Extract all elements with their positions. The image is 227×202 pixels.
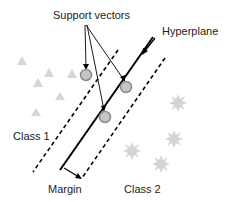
triangle-icon xyxy=(31,108,41,116)
starburst-icon xyxy=(165,130,183,148)
margin-label: Margin xyxy=(48,183,82,195)
support-vector-pointers xyxy=(85,25,124,110)
starburst-icon xyxy=(123,142,141,160)
arrowhead-icon xyxy=(75,173,82,179)
class1-label: Class 1 xyxy=(13,130,50,142)
starburst-icon xyxy=(152,155,170,173)
class1-points xyxy=(17,56,77,116)
support-vector-icon xyxy=(100,112,111,123)
support-vector-icon xyxy=(81,70,92,81)
support-vector-icon xyxy=(121,82,132,93)
triangle-icon xyxy=(67,69,77,78)
triangle-icon xyxy=(55,92,65,100)
svm-diagram: Support vectors Hyperplane Class 1 Margi… xyxy=(0,0,227,202)
starburst-icon xyxy=(169,94,187,112)
triangle-icon xyxy=(33,78,43,87)
hyperplane-line xyxy=(60,37,153,170)
support-vectors-label: Support vectors xyxy=(53,9,131,21)
triangle-icon xyxy=(17,56,27,65)
class2-label: Class 2 xyxy=(124,183,161,195)
hyperplane-label: Hyperplane xyxy=(162,25,218,37)
triangle-icon xyxy=(44,68,54,77)
